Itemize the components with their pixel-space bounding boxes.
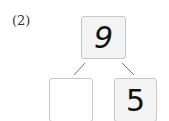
answer-box[interactable] [49,78,93,121]
part-number-box: 5 [114,78,157,121]
part-right: 5 [126,83,145,118]
